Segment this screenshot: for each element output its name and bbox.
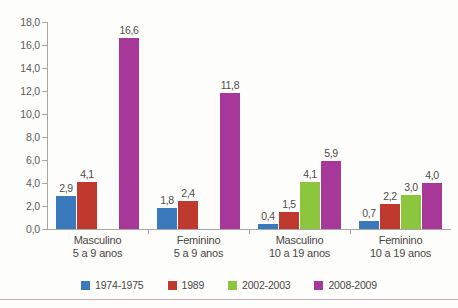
bar-value-label: 2,4 xyxy=(168,187,208,199)
y-axis-tick-label: 14,0 xyxy=(4,62,40,74)
y-axis-tick-label: 6,0 xyxy=(4,154,40,166)
legend-swatch-icon xyxy=(314,281,323,290)
bar-value-label: 4,0 xyxy=(412,169,452,181)
y-axis-tick xyxy=(42,206,48,207)
legend-item-2008-2009[interactable]: 2008-2009 xyxy=(314,279,376,291)
bar-value-label: 16,6 xyxy=(109,24,149,36)
y-axis-tick xyxy=(42,114,48,115)
chart-legend: 1974-197519892002-20032008-2009 xyxy=(0,279,458,291)
y-axis-tick-label: 12,0 xyxy=(4,85,40,97)
y-axis-tick-label: 4,0 xyxy=(4,177,40,189)
legend-item-1989[interactable]: 1989 xyxy=(168,279,205,291)
bar-value-label: 1,5 xyxy=(269,198,309,210)
bar-2008-2009-Feminino xyxy=(220,93,240,229)
x-axis-category-label: Feminino10 a 19 anos xyxy=(350,234,451,260)
bottom-divider-rule xyxy=(0,299,458,300)
category-label-line2: 5 a 9 anos xyxy=(47,247,148,260)
x-axis-category-label: Masculino5 a 9 anos xyxy=(47,234,148,260)
bar-1974-1975-Masculino xyxy=(56,196,76,229)
y-axis-tick-label: 2,0 xyxy=(4,200,40,212)
x-axis-group-separator-tick xyxy=(350,229,351,234)
legend-label: 2008-2009 xyxy=(328,279,376,291)
y-axis-tick xyxy=(42,160,48,161)
y-axis-tick xyxy=(42,22,48,23)
bar-1974-1975-Feminino xyxy=(157,208,177,229)
legend-swatch-icon xyxy=(168,281,177,290)
bar-value-label: 5,9 xyxy=(311,147,351,159)
x-axis-category-label: Feminino5 a 9 anos xyxy=(148,234,249,260)
bar-value-label: 4,1 xyxy=(290,168,330,180)
legend-label: 1974-1975 xyxy=(95,279,143,291)
y-axis-tick-label: 18,0 xyxy=(4,16,40,28)
legend-item-2002-2003[interactable]: 2002-2003 xyxy=(228,279,290,291)
category-label-line1: Masculino xyxy=(74,234,122,246)
legend-label: 1989 xyxy=(182,279,205,291)
y-axis-tick xyxy=(42,68,48,69)
category-label-line1: Masculino xyxy=(276,234,324,246)
y-axis-tick-label: 8,0 xyxy=(4,131,40,143)
y-axis-tick-label: 0,0 xyxy=(4,223,40,235)
x-axis-category-label: Masculino10 a 19 anos xyxy=(249,234,350,260)
legend-item-1974-1975[interactable]: 1974-1975 xyxy=(81,279,143,291)
legend-swatch-icon xyxy=(81,281,90,290)
bar-value-label: 2,9 xyxy=(46,182,86,194)
bar-value-label: 0,4 xyxy=(248,210,288,222)
y-axis-tick-label: 10,0 xyxy=(4,108,40,120)
y-axis-tick xyxy=(42,137,48,138)
category-label-line2: 5 a 9 anos xyxy=(148,247,249,260)
bar-1974-1975-Masculino xyxy=(258,224,278,229)
bar-1974-1975-Feminino xyxy=(359,221,379,229)
bar-value-label: 4,1 xyxy=(67,168,107,180)
y-axis-tick xyxy=(42,91,48,92)
x-axis-group-separator-tick xyxy=(249,229,250,234)
bar-chart: 0,02,04,06,08,010,012,014,016,018,0 1974… xyxy=(0,0,458,308)
legend-swatch-icon xyxy=(228,281,237,290)
bar-value-label: 0,7 xyxy=(349,207,389,219)
bar-value-label: 11,8 xyxy=(210,79,250,91)
y-axis-tick-label: 16,0 xyxy=(4,39,40,51)
category-label-line2: 10 a 19 anos xyxy=(350,247,451,260)
bar-2008-2009-Masculino xyxy=(119,38,139,229)
y-axis-tick xyxy=(42,229,48,230)
bar-value-label: 3,0 xyxy=(391,181,431,193)
y-axis-tick xyxy=(42,45,48,46)
category-label-line2: 10 a 19 anos xyxy=(249,247,350,260)
category-label-line1: Feminino xyxy=(379,234,423,246)
legend-label: 2002-2003 xyxy=(242,279,290,291)
x-axis-group-separator-tick xyxy=(148,229,149,234)
category-label-line1: Feminino xyxy=(177,234,221,246)
